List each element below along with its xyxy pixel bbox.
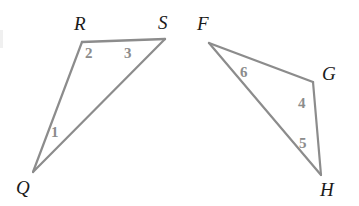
angle-label-4: 4 xyxy=(298,96,306,111)
vertex-label-r: R xyxy=(74,14,86,33)
segment-gh xyxy=(313,82,321,175)
angle-label-2: 2 xyxy=(85,46,93,61)
vertex-label-f: F xyxy=(197,14,209,33)
segment-rq xyxy=(33,42,82,172)
angle-label-6: 6 xyxy=(240,65,248,80)
vertex-label-s: S xyxy=(158,13,168,32)
angle-label-5: 5 xyxy=(299,136,307,151)
vertex-label-q: Q xyxy=(16,178,30,197)
triangle-qrs xyxy=(33,39,165,172)
geometry-diagram: R S Q F G H 1 2 3 4 5 6 xyxy=(0,0,359,206)
vertex-label-h: H xyxy=(320,180,334,199)
vertex-label-g: G xyxy=(322,64,336,83)
angle-label-1: 1 xyxy=(51,125,59,140)
segment-qs xyxy=(33,39,165,172)
angle-label-3: 3 xyxy=(124,46,132,61)
segment-rs xyxy=(82,39,165,42)
